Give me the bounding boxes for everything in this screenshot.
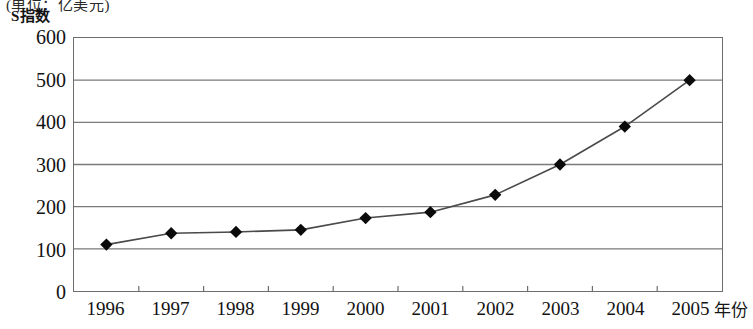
x-axis-tick-labels: 1996199719981999200020012002200320042005 bbox=[73, 297, 723, 325]
y-axis-tick-label: 100 bbox=[4, 240, 66, 260]
data-point-marker bbox=[424, 206, 436, 218]
y-axis-tick-label: 0 bbox=[4, 282, 66, 302]
y-axis-tick-label: 500 bbox=[4, 70, 66, 90]
plot-area bbox=[73, 37, 723, 292]
y-axis-tick-label: 200 bbox=[4, 197, 66, 217]
y-axis-title: S指数 bbox=[11, 4, 50, 25]
data-point-marker bbox=[230, 226, 242, 238]
y-axis-tick-labels: 0100200300400500600 bbox=[0, 37, 66, 292]
data-point-marker bbox=[683, 74, 695, 86]
data-point-marker bbox=[359, 212, 371, 224]
y-axis-tick-label: 300 bbox=[4, 155, 66, 175]
y-axis-tick-label: 600 bbox=[4, 27, 66, 47]
y-axis-tick-label: 400 bbox=[4, 112, 66, 132]
data-point-marker bbox=[489, 189, 501, 201]
data-series-layer bbox=[74, 38, 722, 291]
data-point-marker bbox=[165, 227, 177, 239]
data-point-marker bbox=[619, 120, 631, 132]
series-line bbox=[106, 80, 689, 244]
data-point-marker bbox=[295, 224, 307, 236]
data-point-marker bbox=[554, 158, 566, 170]
data-point-marker bbox=[100, 238, 112, 250]
x-axis-title: 年份 bbox=[714, 299, 748, 323]
line-chart-figure: (单位：亿美元) S指数 0100200300400500600 1996199… bbox=[0, 0, 753, 329]
